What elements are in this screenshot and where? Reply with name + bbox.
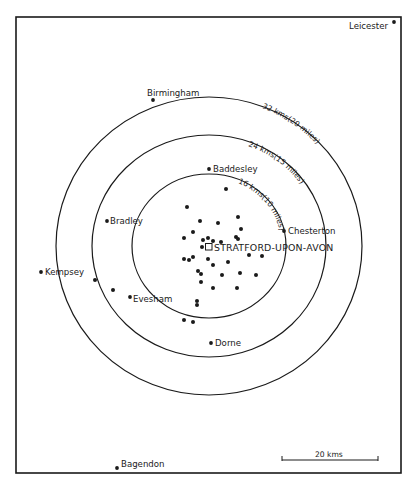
open-square-icon bbox=[206, 244, 213, 251]
ring-label-inner: 16 kms(10 miles) bbox=[237, 177, 286, 232]
find-site-dot-icon bbox=[200, 245, 204, 249]
place-label: Kempsey bbox=[45, 267, 84, 277]
find-sites bbox=[93, 187, 264, 324]
find-site-dot-icon bbox=[247, 253, 251, 257]
place-label: Bradley bbox=[110, 216, 143, 226]
place-dot-icon bbox=[282, 229, 286, 233]
find-site-dot-icon bbox=[191, 320, 195, 324]
find-site-dot-icon bbox=[196, 269, 200, 273]
find-site-dot-icon bbox=[201, 238, 205, 242]
find-site-dot-icon bbox=[187, 258, 191, 262]
place-kempsey: Kempsey bbox=[39, 267, 84, 277]
place-dot-icon bbox=[392, 20, 396, 24]
place-label: Birmingham bbox=[147, 88, 199, 98]
scale-bar-label: 20 kms bbox=[315, 450, 343, 459]
place-label: Baddesley bbox=[213, 164, 258, 174]
center-marker: STRATFORD-UPON-AVON bbox=[206, 242, 334, 253]
find-site-dot-icon bbox=[254, 273, 258, 277]
find-site-dot-icon bbox=[195, 303, 199, 307]
find-site-dot-icon bbox=[216, 221, 220, 225]
distribution-map: 32 kms(20 miles) 24 kms(15 miles) 16 kms… bbox=[0, 0, 415, 487]
find-site-dot-icon bbox=[191, 255, 195, 259]
find-site-dot-icon bbox=[198, 219, 202, 223]
ring-label-outer: 32 kms(20 miles) bbox=[261, 101, 322, 145]
find-site-dot-icon bbox=[235, 286, 239, 290]
place-dot-icon bbox=[105, 219, 109, 223]
place-leicester: Leicester bbox=[349, 20, 396, 31]
find-site-dot-icon bbox=[224, 187, 228, 191]
find-site-dot-icon bbox=[185, 205, 189, 209]
place-dot-icon bbox=[207, 167, 211, 171]
find-site-dot-icon bbox=[239, 227, 243, 231]
find-site-dot-icon bbox=[199, 280, 203, 284]
find-site-dot-icon bbox=[220, 273, 224, 277]
place-evesham: Evesham bbox=[128, 294, 172, 304]
find-site-dot-icon bbox=[93, 278, 97, 282]
find-site-dot-icon bbox=[226, 260, 230, 264]
find-site-dot-icon bbox=[211, 263, 215, 267]
ring-label-middle: 24 kms(15 miles) bbox=[247, 139, 306, 185]
find-site-dot-icon bbox=[182, 236, 186, 240]
center-town-label: STRATFORD-UPON-AVON bbox=[214, 242, 333, 253]
find-site-dot-icon bbox=[182, 318, 186, 322]
place-label: Bagendon bbox=[121, 459, 165, 469]
find-site-dot-icon bbox=[191, 230, 195, 234]
place-bagendon: Bagendon bbox=[115, 459, 164, 470]
find-site-dot-icon bbox=[206, 236, 210, 240]
find-site-dot-icon bbox=[260, 254, 264, 258]
find-site-dot-icon bbox=[111, 288, 115, 292]
place-dorne: Dorne bbox=[209, 338, 241, 348]
place-chesterton: Chesterton bbox=[282, 226, 335, 236]
find-site-dot-icon bbox=[182, 257, 186, 261]
place-label: Chesterton bbox=[288, 226, 335, 236]
place-birmingham: Birmingham bbox=[147, 88, 199, 102]
place-dot-icon bbox=[39, 270, 43, 274]
place-label: Leicester bbox=[349, 21, 388, 31]
find-site-dot-icon bbox=[195, 299, 199, 303]
find-site-dot-icon bbox=[211, 286, 215, 290]
find-site-dot-icon bbox=[236, 237, 240, 241]
place-label: Evesham bbox=[133, 294, 172, 304]
find-site-dot-icon bbox=[238, 271, 242, 275]
place-dot-icon bbox=[209, 341, 213, 345]
scale-bar: 20 kms bbox=[282, 450, 378, 461]
place-baddesley: Baddesley bbox=[207, 164, 258, 174]
place-bradley: Bradley bbox=[105, 216, 143, 226]
find-site-dot-icon bbox=[199, 272, 203, 276]
find-site-dot-icon bbox=[236, 215, 240, 219]
place-dot-icon bbox=[128, 295, 132, 299]
place-label: Dorne bbox=[215, 338, 241, 348]
find-site-dot-icon bbox=[206, 257, 210, 261]
place-dot-icon bbox=[151, 98, 155, 102]
place-dot-icon bbox=[115, 466, 119, 470]
